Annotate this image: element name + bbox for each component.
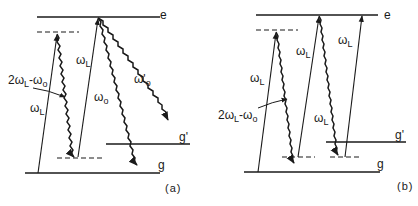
label-e-b: e	[384, 9, 391, 21]
label-g-a: g	[158, 159, 165, 171]
label-wl-3-b: ωL	[314, 112, 328, 127]
wavy-arrow-wo-prime-a	[98, 18, 168, 120]
caption-a: (a)	[165, 183, 181, 194]
label-wl-1-a: ωL	[30, 102, 44, 117]
wavy-arrow-wl-b	[319, 16, 338, 155]
diagram-canvas	[0, 0, 418, 206]
label-wo-a: ωo	[94, 91, 108, 106]
label-e-a: e	[160, 9, 167, 21]
caption-b: (b)	[397, 181, 413, 192]
label-wl-1-b: ωL	[250, 72, 264, 87]
energy-level-figure: e g g' 2ωL-ωo ωL ωL ωo ω'o (a) e g g' ωL…	[0, 0, 418, 206]
label-2wl-wo-a: 2ωL-ωo	[8, 74, 47, 89]
label-wl-4-b: ωL	[338, 34, 352, 49]
label-gprime-a: g'	[179, 131, 188, 143]
pointer-arrow-b	[258, 99, 287, 108]
label-gprime-b: g'	[395, 129, 404, 141]
label-wl-2-b: ωL	[296, 45, 310, 60]
label-wo-prime-a: ω'o	[134, 73, 151, 88]
label-wl-2-a: ωL	[76, 54, 90, 69]
label-g-b: g	[377, 158, 384, 170]
laser-arrow-2-b	[298, 17, 319, 157]
wavy-arrow-2wl-wo-b	[276, 32, 294, 163]
laser-arrow-2-a	[78, 19, 98, 157]
label-2wl-wo-b: 2ωL-ωo	[218, 109, 257, 124]
wavy-arrow-2wl-wo-a	[57, 34, 74, 157]
panel-b	[244, 15, 406, 172]
